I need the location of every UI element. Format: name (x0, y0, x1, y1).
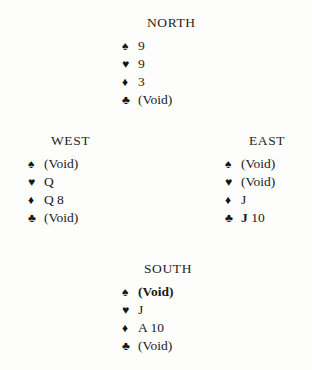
suit-cards-club: (Void) (44, 209, 78, 227)
heart-icon: ♥ (122, 55, 135, 73)
suit-cards-heart: Q (44, 173, 54, 191)
heart-icon: ♥ (225, 173, 238, 191)
club-spot-cards: 10 (248, 210, 265, 225)
hand-west: WEST ♠ (Void) ♥ Q ♦ Q 8 ♣ (Void) (28, 134, 90, 227)
suit-row-diamond: ♦ J (225, 191, 285, 209)
suit-row-heart: ♥ J (122, 301, 192, 319)
suit-row-heart: ♥ 9 (122, 55, 196, 73)
suit-cards-spade: (Void) (44, 155, 78, 173)
heart-icon: ♥ (122, 301, 135, 319)
spade-icon: ♠ (122, 37, 135, 55)
diamond-icon: ♦ (28, 191, 41, 209)
suit-row-spade: ♠ (Void) (122, 283, 192, 301)
bridge-deal-diagram: NORTH ♠ 9 ♥ 9 ♦ 3 ♣ (Void) WEST ♠ (0, 0, 312, 370)
suit-cards-spade: (Void) (241, 155, 275, 173)
suit-cards-heart: 9 (138, 55, 145, 73)
club-honour-emphasis: J (241, 210, 248, 225)
club-icon: ♣ (28, 209, 41, 227)
suit-list-north: ♠ 9 ♥ 9 ♦ 3 ♣ (Void) (122, 37, 196, 109)
suit-row-diamond: ♦ Q 8 (28, 191, 90, 209)
hand-south: SOUTH ♠ (Void) ♥ J ♦ A 10 ♣ (Void) (122, 262, 192, 355)
suit-cards-diamond: 3 (138, 73, 145, 91)
club-icon: ♣ (122, 337, 135, 355)
suit-cards-club: (Void) (138, 337, 172, 355)
suit-row-spade: ♠ 9 (122, 37, 196, 55)
suit-row-club: ♣ (Void) (122, 337, 192, 355)
diamond-icon: ♦ (122, 73, 135, 91)
spade-icon: ♠ (225, 155, 238, 173)
suit-list-south: ♠ (Void) ♥ J ♦ A 10 ♣ (Void) (122, 283, 192, 355)
suit-row-diamond: ♦ 3 (122, 73, 196, 91)
spade-icon: ♠ (28, 155, 41, 173)
diamond-icon: ♦ (122, 319, 135, 337)
hand-label-west: WEST (28, 134, 90, 148)
suit-cards-spade: (Void) (138, 283, 174, 301)
hand-north: NORTH ♠ 9 ♥ 9 ♦ 3 ♣ (Void) (122, 16, 196, 109)
suit-cards-heart: (Void) (241, 173, 275, 191)
suit-cards-diamond: Q 8 (44, 191, 64, 209)
suit-cards-club: (Void) (138, 91, 172, 109)
suit-cards-diamond: J (241, 191, 246, 209)
suit-cards-diamond: A 10 (138, 319, 164, 337)
hand-east: EAST ♠ (Void) ♥ (Void) ♦ J ♣ J 10 (225, 134, 285, 227)
suit-cards-club: J 10 (241, 209, 265, 227)
suit-row-diamond: ♦ A 10 (122, 319, 192, 337)
suit-list-west: ♠ (Void) ♥ Q ♦ Q 8 ♣ (Void) (28, 155, 90, 227)
diamond-icon: ♦ (225, 191, 238, 209)
suit-row-spade: ♠ (Void) (28, 155, 90, 173)
club-icon: ♣ (122, 91, 135, 109)
hand-label-east: EAST (225, 134, 285, 148)
suit-row-club: ♣ (Void) (122, 91, 196, 109)
hand-label-south: SOUTH (122, 262, 192, 276)
suit-list-east: ♠ (Void) ♥ (Void) ♦ J ♣ J 10 (225, 155, 285, 227)
hand-label-north: NORTH (122, 16, 196, 30)
club-icon: ♣ (225, 209, 238, 227)
suit-cards-spade: 9 (138, 37, 145, 55)
heart-icon: ♥ (28, 173, 41, 191)
suit-row-club: ♣ J 10 (225, 209, 285, 227)
suit-row-heart: ♥ Q (28, 173, 90, 191)
suit-row-heart: ♥ (Void) (225, 173, 285, 191)
suit-cards-heart: J (138, 301, 143, 319)
suit-row-spade: ♠ (Void) (225, 155, 285, 173)
suit-row-club: ♣ (Void) (28, 209, 90, 227)
spade-icon: ♠ (122, 283, 135, 301)
